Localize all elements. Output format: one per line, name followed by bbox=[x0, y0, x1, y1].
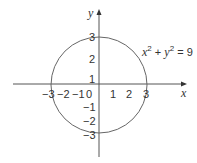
eq-plus: + bbox=[152, 46, 165, 58]
x-axis-label: x bbox=[180, 86, 187, 100]
xtick-origin: 0 bbox=[86, 88, 92, 100]
circle-plot: y x −3 −2 −1 0 1 2 3 3 2 1 −1 −2 −3 x2 +… bbox=[0, 0, 197, 163]
xtick-neg2: −2 bbox=[57, 88, 70, 100]
xtick-neg1: −1 bbox=[72, 88, 85, 100]
ytick-neg1: −1 bbox=[83, 101, 96, 113]
ytick-neg3: −3 bbox=[83, 129, 96, 141]
y-axis-arrow-icon bbox=[97, 9, 102, 15]
equation-label: x2 + y2 = 9 bbox=[141, 44, 193, 59]
y-axis-label: y bbox=[87, 6, 94, 20]
xtick-neg3: −3 bbox=[42, 88, 55, 100]
ytick-neg2: −2 bbox=[83, 115, 96, 127]
xtick-pos2: 2 bbox=[126, 88, 132, 100]
xtick-pos3: 3 bbox=[143, 88, 149, 100]
xtick-pos1: 1 bbox=[110, 88, 116, 100]
ytick-pos3: 3 bbox=[89, 31, 95, 43]
eq-equals: = 9 bbox=[174, 46, 193, 58]
ytick-pos2: 2 bbox=[89, 53, 95, 65]
ytick-pos1: 1 bbox=[89, 73, 95, 85]
